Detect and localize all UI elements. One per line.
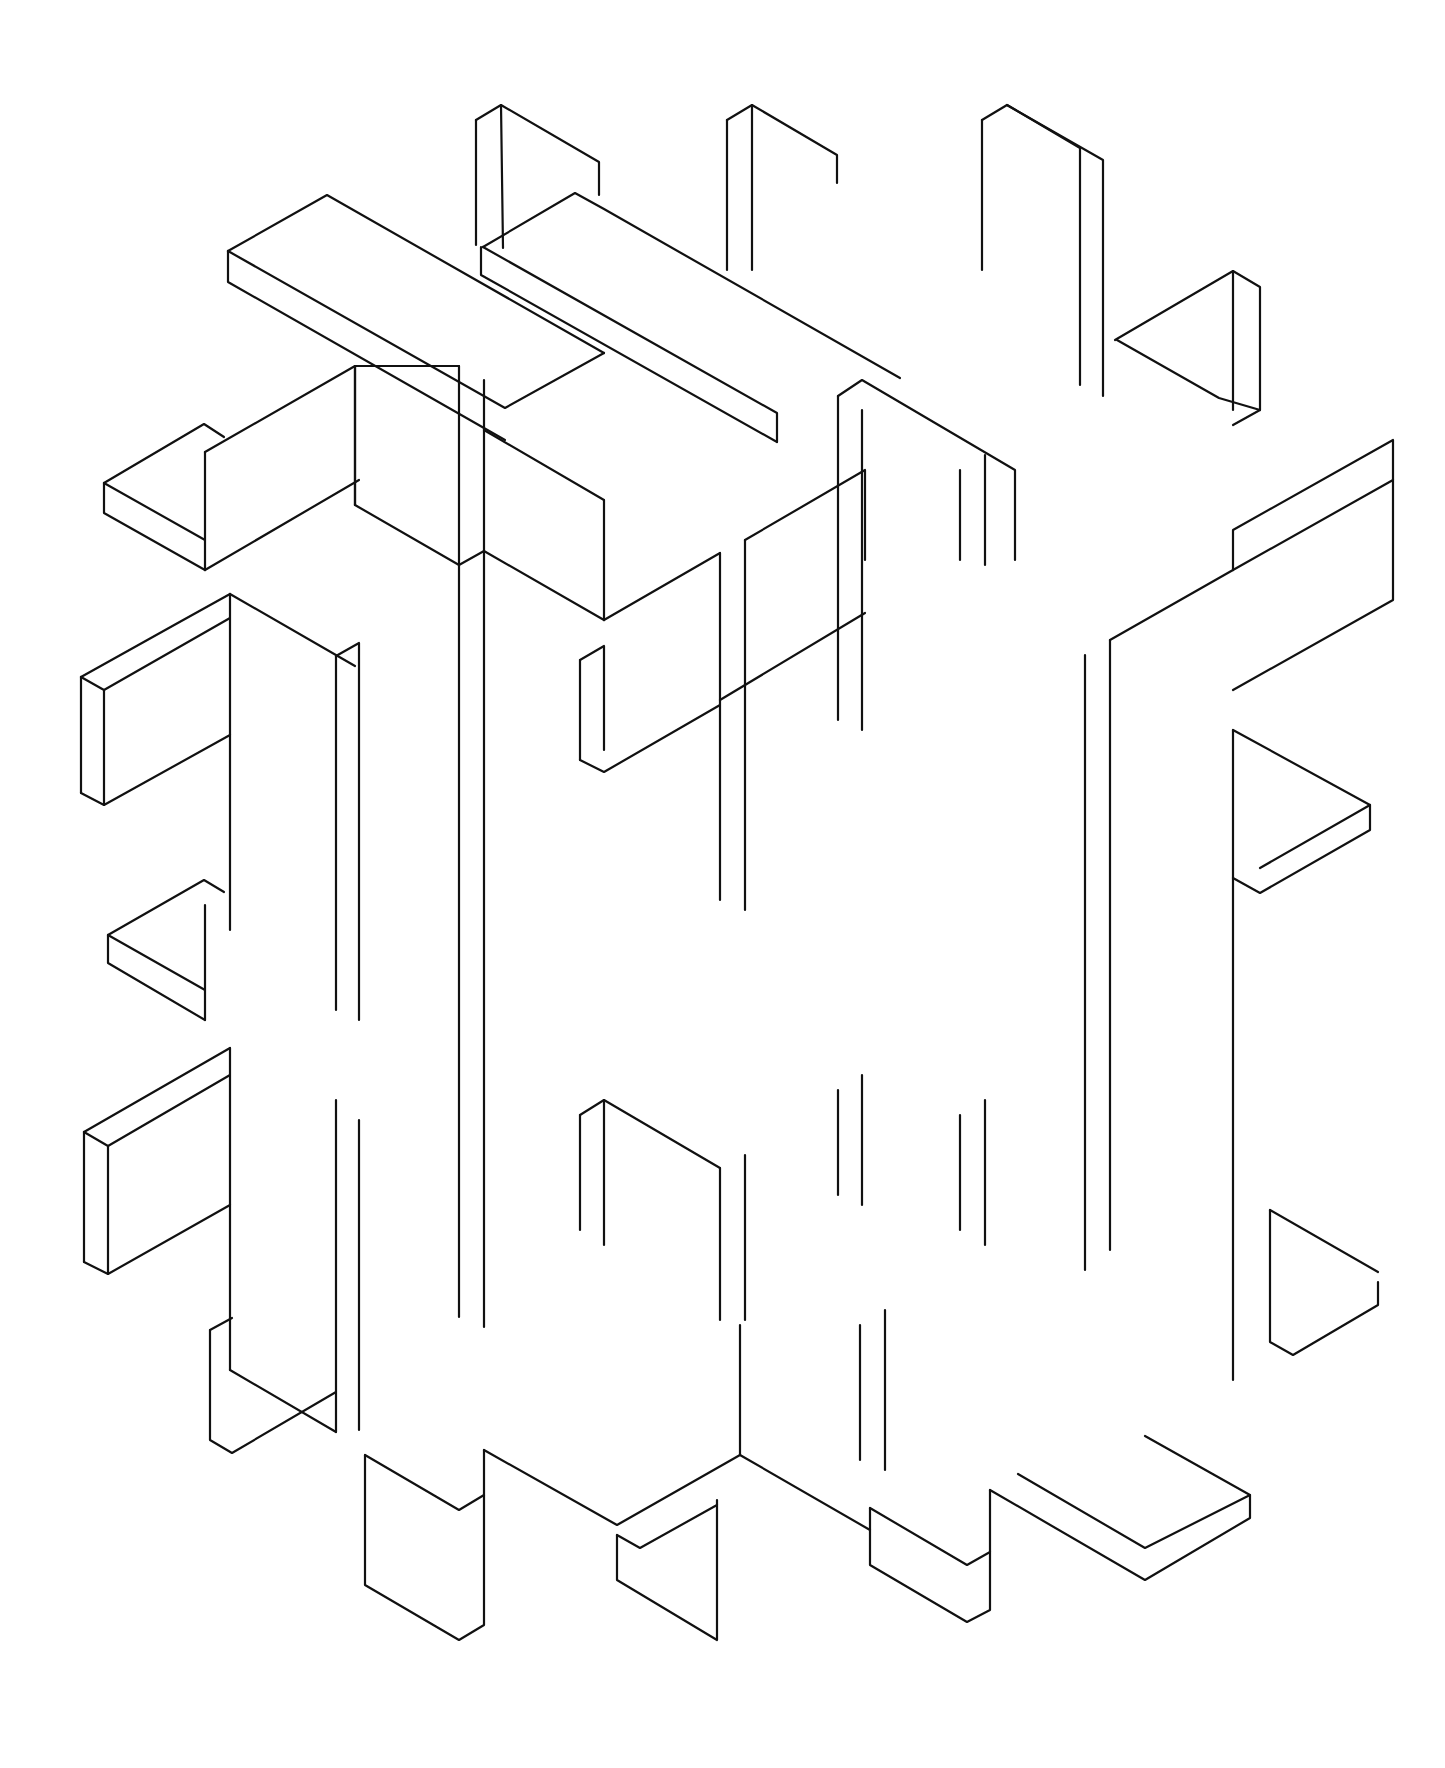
paper-background bbox=[0, 0, 1445, 1768]
isometric-lattice-drawing bbox=[0, 0, 1445, 1768]
